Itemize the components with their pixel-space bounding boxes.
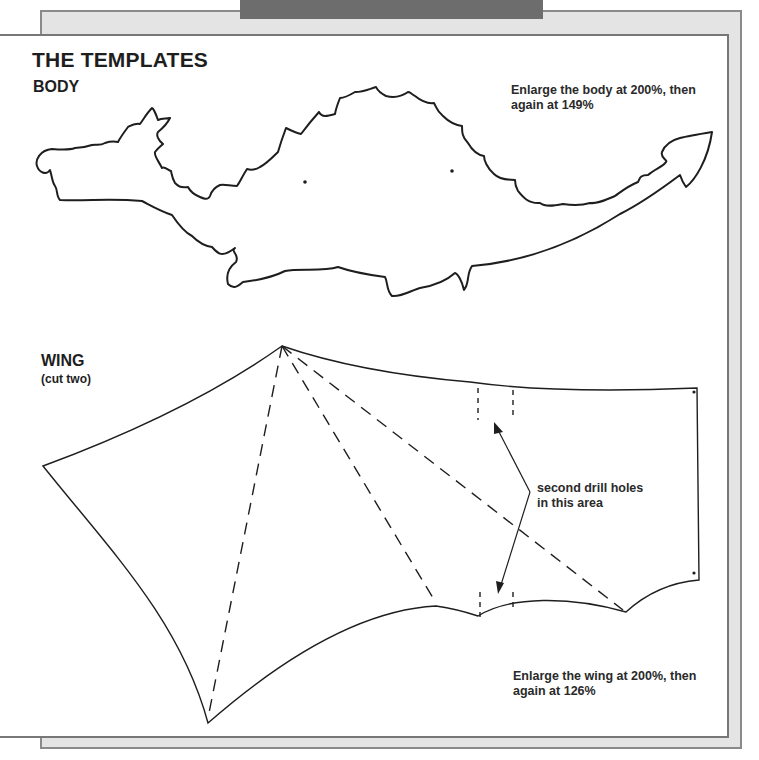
wing-attach-hole-dot [692,390,695,393]
body-drill-hole-dot [450,169,454,173]
dragon-body-outline [37,87,712,296]
body-drill-hole-dot [303,180,307,184]
wing-outline [43,346,699,723]
wing-fold-lines [208,346,623,718]
wing-attach-hole-dot [692,571,695,574]
drill-hole-markers [478,388,513,620]
templates-drawing [0,0,759,760]
arrow-head-down-icon [496,581,504,594]
drill-note-arrows [497,428,530,588]
arrow-head-up-icon [494,422,503,434]
